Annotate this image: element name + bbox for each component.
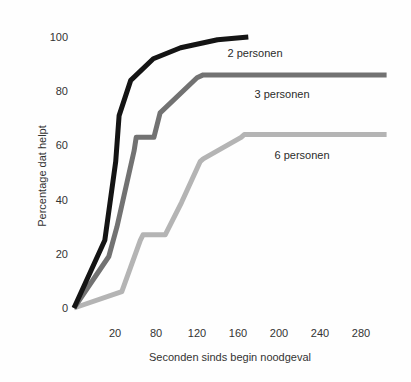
series-label-3-personen: 3 personen: [254, 88, 309, 100]
y-tick-label-80: 80: [56, 85, 72, 97]
x-tick-label-80: 80: [150, 327, 162, 339]
x-tick-label-120: 120: [188, 327, 206, 339]
x-tick-label-160: 160: [229, 327, 247, 339]
series-line-6-personen: [74, 135, 387, 308]
series-label-6-personen: 6 personen: [274, 149, 329, 161]
x-tick-label-280: 280: [352, 327, 370, 339]
y-tick-label-20: 20: [56, 248, 72, 260]
y-axis-title: Percentage dat helpt: [36, 125, 48, 227]
y-tick-label-60: 60: [56, 139, 72, 151]
x-tick-label-20: 20: [109, 327, 121, 339]
plot-canvas: [0, 0, 411, 382]
x-tick-label-240: 240: [311, 327, 329, 339]
bystander-help-chart: Percentage dat helpt Seconden sinds begi…: [0, 0, 411, 382]
y-tick-label-100: 100: [50, 31, 72, 43]
series-label-2-personen: 2 personen: [227, 47, 282, 59]
x-tick-label-200: 200: [270, 327, 288, 339]
x-axis-title: Seconden sinds begin noodgeval: [149, 351, 311, 363]
y-tick-label-40: 40: [56, 194, 72, 206]
y-tick-label-0: 0: [62, 302, 72, 314]
